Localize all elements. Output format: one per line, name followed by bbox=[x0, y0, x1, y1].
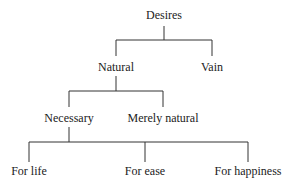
tree-connectors bbox=[0, 0, 292, 187]
node-for-life: For life bbox=[11, 164, 47, 178]
node-for-ease: For ease bbox=[125, 164, 165, 178]
node-natural: Natural bbox=[98, 60, 134, 74]
node-for-happiness: For happiness bbox=[215, 164, 282, 178]
node-merely-natural: Merely natural bbox=[128, 111, 199, 125]
node-vain: Vain bbox=[201, 60, 223, 74]
node-necessary: Necessary bbox=[44, 111, 93, 125]
node-desires: Desires bbox=[146, 8, 182, 22]
